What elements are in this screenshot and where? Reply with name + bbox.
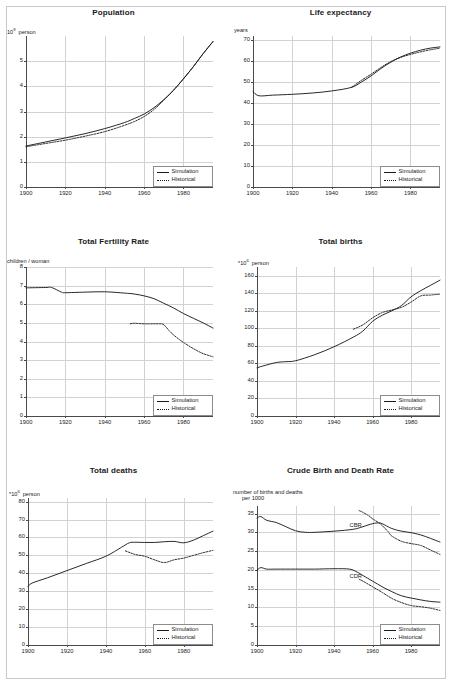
legend-label-simulation: Simulation — [172, 398, 199, 404]
series-annotation: CDR — [349, 573, 362, 579]
legend-item-simulation[interactable]: Simulation — [384, 398, 436, 406]
chart-legend: SimulationHistorical — [153, 624, 213, 645]
legend-label-simulation: Simulation — [399, 169, 426, 175]
dotted-line-icon — [157, 177, 169, 183]
legend-label-simulation: Simulation — [172, 169, 199, 175]
chart-panel-5: Total deaths*106person010203040506070801… — [0, 458, 227, 687]
dotted-line-icon — [384, 177, 396, 183]
legend-label-historical: Historical — [172, 177, 196, 183]
solid-line-icon — [157, 398, 169, 404]
legend-item-simulation[interactable]: Simulation — [157, 627, 209, 635]
series-line-simulation — [26, 287, 213, 328]
legend-item-historical[interactable]: Historical — [384, 405, 436, 413]
legend-item-historical[interactable]: Historical — [157, 176, 209, 184]
chart-panel-2: Life expectancyyears01020304050607019001… — [227, 0, 454, 229]
series-line-historical — [26, 42, 213, 147]
chart-panel-4: Total births*106person020406080100120140… — [227, 229, 454, 458]
legend-label-historical: Historical — [399, 177, 423, 183]
solid-line-icon — [384, 169, 396, 175]
chart-legend: SimulationHistorical — [380, 395, 440, 416]
series-line-cbr-simulation — [257, 516, 440, 542]
legend-label-historical: Historical — [172, 635, 196, 641]
solid-line-icon — [384, 627, 396, 633]
legend-label-simulation: Simulation — [399, 627, 426, 633]
chart-panel-1: Population109person012345190019201940196… — [0, 0, 227, 229]
chart-grid: Population109person012345190019201940196… — [0, 0, 454, 687]
chart-panel-6: Crude Birth and Death Ratenumber of birt… — [227, 458, 454, 687]
legend-item-historical[interactable]: Historical — [157, 405, 209, 413]
solid-line-icon — [157, 627, 169, 633]
chart-curves — [0, 0, 227, 229]
dotted-line-icon — [384, 406, 396, 412]
chart-curves — [0, 458, 227, 687]
legend-label-simulation: Simulation — [172, 627, 199, 633]
series-line-simulation — [257, 280, 440, 368]
legend-label-historical: Historical — [399, 406, 423, 412]
series-line-cbr-historical — [359, 511, 440, 555]
legend-label-historical: Historical — [172, 406, 196, 412]
legend-item-simulation[interactable]: Simulation — [157, 398, 209, 406]
chart-curves — [0, 229, 227, 458]
legend-item-simulation[interactable]: Simulation — [157, 169, 209, 177]
chart-legend: SimulationHistorical — [380, 624, 440, 645]
dotted-line-icon — [157, 406, 169, 412]
series-line-simulation — [28, 531, 213, 587]
series-line-historical — [130, 323, 213, 357]
chart-legend: SimulationHistorical — [153, 395, 213, 416]
legend-label-historical: Historical — [399, 635, 423, 641]
legend-item-simulation[interactable]: Simulation — [384, 169, 436, 177]
legend-item-historical[interactable]: Historical — [384, 176, 436, 184]
chart-curves — [227, 458, 454, 687]
series-line-simulation — [26, 42, 213, 146]
series-annotation: CBR — [349, 522, 361, 528]
solid-line-icon — [384, 398, 396, 404]
chart-curves — [227, 229, 454, 458]
legend-label-simulation: Simulation — [399, 398, 426, 404]
dotted-line-icon — [157, 635, 169, 641]
chart-curves — [227, 0, 454, 229]
series-line-historical — [351, 48, 440, 87]
legend-item-simulation[interactable]: Simulation — [384, 627, 436, 635]
chart-legend: SimulationHistorical — [153, 166, 213, 187]
series-line-historical — [353, 294, 440, 329]
series-line-historical — [125, 550, 213, 562]
dotted-line-icon — [384, 635, 396, 641]
chart-legend: SimulationHistorical — [380, 166, 440, 187]
legend-item-historical[interactable]: Historical — [384, 634, 436, 642]
chart-panel-3: Total Fertility Ratechildren / woman0123… — [0, 229, 227, 458]
solid-line-icon — [157, 169, 169, 175]
legend-item-historical[interactable]: Historical — [157, 634, 209, 642]
